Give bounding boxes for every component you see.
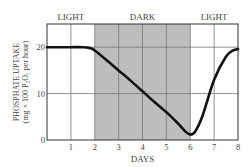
- x-axis-label: DAYS: [131, 154, 155, 164]
- x-tick-label: 4: [140, 142, 145, 152]
- period-label: LIGHT: [57, 12, 84, 22]
- period-labels: LIGHTDARKLIGHT: [57, 12, 228, 22]
- y-axis-title: PHOSPHATE UPTAKE: [12, 41, 21, 124]
- x-tick-label: 5: [164, 142, 168, 152]
- x-tick-label: 6: [188, 142, 192, 152]
- x-tick-label: 8: [236, 142, 240, 152]
- x-tick-label: 3: [117, 142, 121, 152]
- y-axis-label: PHOSPHATE UPTAKE (mg × 100 P₂O₅ per hour…: [3, 24, 39, 140]
- x-tick-label: 7: [212, 142, 216, 152]
- x-tick-label: 2: [93, 142, 97, 152]
- period-label: LIGHT: [201, 12, 228, 22]
- x-tick-label: 1: [69, 142, 73, 152]
- grid-lines: [47, 24, 238, 140]
- period-label: DARK: [130, 12, 156, 22]
- x-axis-ticks: 12345678: [69, 142, 240, 152]
- y-axis-units: (mg × 100 P₂O₅ per hour): [21, 41, 30, 124]
- y-tick-label: 0: [41, 135, 45, 145]
